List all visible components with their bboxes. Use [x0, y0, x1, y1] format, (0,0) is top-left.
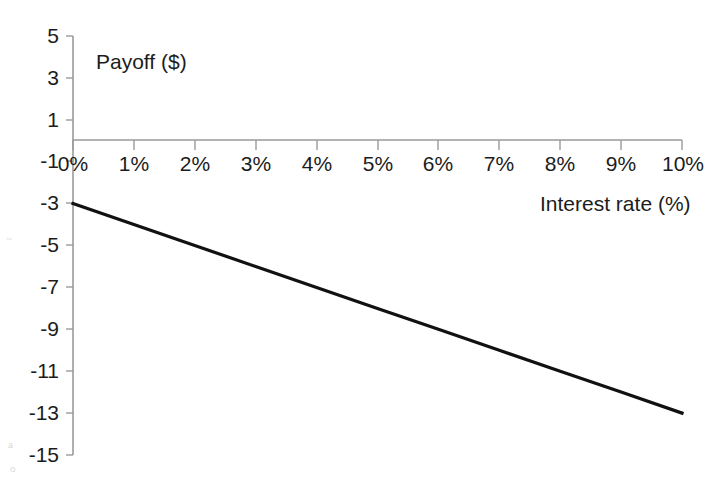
y-tick-label: 1 [14, 108, 59, 132]
y-tick-label: -7 [14, 275, 59, 299]
y-tick-label: -13 [14, 401, 59, 425]
y-axis-ticks [66, 36, 73, 455]
x-axis-ticks [73, 140, 682, 150]
x-tick-label: 7% [469, 152, 529, 176]
x-tick-label: 4% [287, 152, 347, 176]
x-tick-label: 10% [650, 152, 716, 176]
y-tick-label: -3 [14, 191, 59, 215]
chart-figure: ~ a o [0, 0, 728, 480]
y-tick-label: -15 [14, 443, 59, 467]
y-tick-label: 5 [14, 24, 59, 48]
x-tick-label: 2% [165, 152, 225, 176]
x-tick-label: 6% [408, 152, 468, 176]
x-tick-label: 0% [43, 152, 103, 176]
x-tick-label: 9% [591, 152, 651, 176]
y-axis-title: Payoff ($) [96, 50, 187, 74]
y-tick-label: -11 [14, 359, 59, 383]
x-tick-label: 1% [104, 152, 164, 176]
x-tick-label: 5% [348, 152, 408, 176]
y-tick-label: 3 [14, 66, 59, 90]
x-tick-label: 8% [530, 152, 590, 176]
y-tick-label: -9 [14, 317, 59, 341]
series-line-payoff [73, 204, 682, 414]
x-tick-label: 3% [226, 152, 286, 176]
y-tick-label: -5 [14, 233, 59, 257]
x-axis-title: Interest rate (%) [540, 192, 691, 216]
